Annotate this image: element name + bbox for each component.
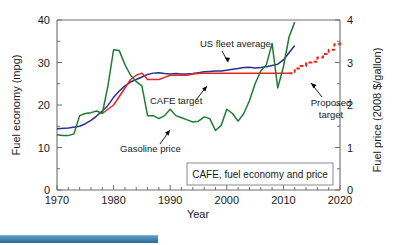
series-cafe-target [102,73,289,113]
x-tick-label: 2000 [215,194,239,206]
y-axis-left-title: Fuel economy (mpg) [10,55,22,156]
y-axis-right-title: Fuel price (2008 $/gallon) [371,48,383,173]
annotation-proposed-line2: target [319,109,344,120]
annotation-proposed-target: Proposed target Proposed target [311,83,352,120]
chart-figure: 197019801990200020102020 010203040 01234… [0,0,397,245]
x-tick-label: 1990 [158,194,182,206]
annotation-proposed-line1: Proposed [311,97,352,108]
y-axis-left-tick-labels: 010203040 [38,14,50,196]
x-axis-tick-labels: 197019801990200020102020 [45,194,352,206]
annotation-cafe-target: CAFE target [150,86,207,106]
x-tick-label: 1980 [101,194,125,206]
y-axis-left-ticks [57,20,62,190]
annotation-us-fleet-average: US fleet average [200,38,271,62]
chart-svg: 197019801990200020102020 010203040 01234… [0,0,397,245]
arrowhead-icon [165,130,170,136]
x-axis-ticks [57,185,340,190]
x-axis-title: Year [187,208,210,220]
y2-tick-label: 0 [347,184,353,196]
annotation-label-gasoline-price: Gasoline price [120,143,181,154]
annotation-label-us-fleet-average: US fleet average [200,38,271,49]
series-proposed-target [289,41,340,73]
y-tick-label: 20 [38,99,50,111]
annotation-label-cafe-target: CAFE target [150,95,203,106]
y-tick-label: 10 [38,142,50,154]
y2-tick-label: 4 [347,14,353,26]
y2-tick-label: 3 [347,57,353,69]
annotation-gasoline-price: Gasoline price [120,130,181,154]
horizontal-scrollbar[interactable] [0,235,158,243]
y2-tick-label: 1 [347,142,353,154]
caption-label: CAFE, fuel economy and price [192,169,328,180]
data-series-group [57,22,340,135]
x-tick-label: 2010 [271,194,295,206]
y-tick-label: 40 [38,14,50,26]
y-tick-label: 0 [44,184,50,196]
caption-box: CAFE, fuel economy and price [187,163,333,185]
y-tick-label: 30 [38,57,50,69]
arrowhead-icon [311,83,317,88]
